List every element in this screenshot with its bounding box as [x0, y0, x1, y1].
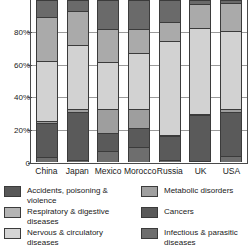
- bar-segment: [189, 161, 211, 162]
- legend-item[interactable]: Infectious & parasitic diseases: [141, 228, 238, 247]
- bar-segment: [128, 109, 150, 128]
- legend-swatch-icon: [4, 186, 21, 197]
- legend-label: Respiratory & digestive diseases: [27, 207, 135, 226]
- chart-legend: Accidents, poisoning & violenceRespirato…: [0, 184, 252, 248]
- bar-morocco[interactable]: [128, 0, 150, 162]
- legend-item[interactable]: Cancers: [141, 207, 194, 218]
- bar-segment: [128, 147, 150, 162]
- bar-segment: [67, 45, 89, 108]
- bar-segment: [67, 160, 89, 162]
- x-axis-tick-label: USA: [216, 165, 246, 177]
- bar-usa[interactable]: [220, 0, 242, 162]
- x-axis-tick-label: UK: [186, 165, 216, 177]
- y-axis-tick-label: 60%: [2, 62, 30, 70]
- legend-item[interactable]: Nervous & circulatory diseases: [4, 228, 135, 247]
- legend-swatch-icon: [141, 207, 158, 218]
- bar-russia[interactable]: [159, 0, 181, 162]
- bar-segment: [189, 115, 211, 161]
- bar-segment: [97, 29, 119, 61]
- legend-column-left: Accidents, poisoning & violenceRespirato…: [0, 184, 135, 248]
- chart-plot-area: 020%40%60%80% ChinaJapanMexicoMoroccoRus…: [0, 0, 252, 182]
- bar-japan[interactable]: [67, 0, 89, 162]
- bar-segment: [97, 151, 119, 162]
- bar-segment: [128, 128, 150, 147]
- x-axis-tick-label: Russia: [155, 165, 185, 177]
- bar-segment: [128, 53, 150, 108]
- legend-item[interactable]: Respiratory & digestive diseases: [4, 207, 135, 226]
- bar-segment: [67, 0, 89, 11]
- x-axis-tick-label: Mexico: [93, 165, 123, 177]
- legend-item[interactable]: Metabolic disorders: [141, 186, 233, 197]
- legend-swatch-icon: [141, 228, 158, 239]
- bar-segment: [97, 62, 119, 109]
- bar-segment: [159, 136, 181, 160]
- bar-segment: [159, 22, 181, 41]
- legend-label: Cancers: [164, 207, 194, 217]
- legend-label: Infectious & parasitic diseases: [164, 228, 238, 247]
- bar-segment: [36, 17, 58, 61]
- x-axis-tick-label: Japan: [62, 165, 92, 177]
- x-axis-tick-label: China: [31, 165, 61, 177]
- y-axis: 020%40%60%80%: [0, 0, 30, 166]
- bar-segment: [128, 29, 150, 53]
- bar-segment: [67, 112, 89, 160]
- bar-segment: [159, 160, 181, 162]
- bar-uk[interactable]: [189, 0, 211, 162]
- bar-segment: [36, 0, 58, 17]
- y-axis-tick-label: 80%: [2, 29, 30, 37]
- legend-label: Accidents, poisoning & violence: [27, 186, 135, 205]
- legend-swatch-icon: [141, 186, 158, 197]
- y-axis-tick-label: 40%: [2, 94, 30, 102]
- bar-segment: [159, 41, 181, 135]
- bar-segment: [97, 109, 119, 133]
- bar-segment: [97, 0, 119, 29]
- bar-segment: [220, 31, 242, 109]
- bar-segment: [159, 0, 181, 22]
- bar-segment: [128, 0, 150, 29]
- legend-swatch-icon: [4, 228, 21, 239]
- legend-label: Nervous & circulatory diseases: [27, 228, 135, 247]
- bar-mexico[interactable]: [97, 0, 119, 162]
- bar-segment: [36, 123, 58, 157]
- bar-segment: [67, 11, 89, 45]
- bar-segment: [220, 112, 242, 156]
- legend-item[interactable]: Accidents, poisoning & violence: [4, 186, 135, 205]
- y-axis-tick-label: 20%: [2, 127, 30, 135]
- stacked-bar-chart-figure: 020%40%60%80% ChinaJapanMexicoMoroccoRus…: [0, 0, 252, 248]
- bar-group: [32, 0, 246, 162]
- bar-segment: [36, 61, 58, 121]
- bar-segment: [220, 156, 242, 162]
- x-axis: ChinaJapanMexicoMoroccoRussiaUKUSA: [31, 165, 247, 181]
- bar-china[interactable]: [36, 0, 58, 162]
- legend-label: Metabolic disorders: [164, 186, 233, 196]
- bar-segment: [189, 4, 211, 28]
- bar-segment: [36, 157, 58, 162]
- bar-segment: [220, 3, 242, 31]
- x-axis-tick-label: Morocco: [124, 165, 154, 177]
- bar-segment: [189, 28, 211, 114]
- bar-segment: [97, 133, 119, 151]
- plot-frame: [30, 0, 248, 164]
- y-axis-tick-label: 0: [2, 160, 30, 168]
- legend-column-right: Metabolic disordersCancersInfectious & p…: [135, 184, 252, 248]
- legend-swatch-icon: [4, 207, 21, 218]
- y-axis-tickmark: [28, 163, 32, 164]
